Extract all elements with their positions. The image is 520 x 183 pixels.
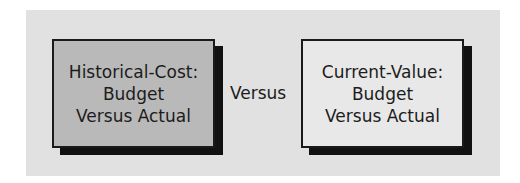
current-value-box: Current-Value: Budget Versus Actual bbox=[301, 39, 464, 148]
historical-cost-box: Historical-Cost: Budget Versus Actual bbox=[52, 39, 215, 148]
box-line: Versus Actual bbox=[325, 105, 440, 127]
current-value-box-group: Current-Value: Budget Versus Actual bbox=[301, 39, 464, 148]
box-line: Budget bbox=[352, 83, 413, 105]
box-line: Budget bbox=[103, 83, 164, 105]
historical-cost-box-group: Historical-Cost: Budget Versus Actual bbox=[52, 39, 215, 148]
box-title: Current-Value: bbox=[322, 61, 443, 83]
versus-label: Versus bbox=[226, 83, 290, 103]
box-line: Versus Actual bbox=[76, 105, 191, 127]
box-title: Historical-Cost: bbox=[69, 61, 198, 83]
